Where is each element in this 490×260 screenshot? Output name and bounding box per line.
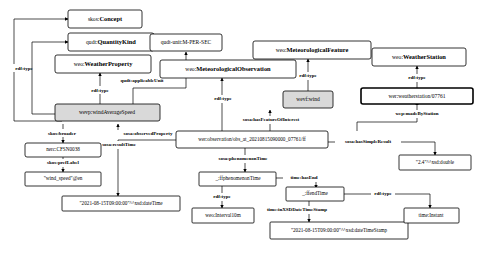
edge-made-by-station: wep:madeByStation — [357, 102, 445, 131]
edge-phenomenon-time: sosa:phenomenonTime — [208, 148, 274, 172]
node-label-nerc-cfsn0038: nerc:CFSN0038 — [46, 146, 80, 152]
edge-label-rdftype-metobservation: rdf:type — [214, 96, 232, 101]
rdf-graph-canvas: rdf:type rdf:type qudt:applicableUnit sk… — [0, 0, 490, 260]
node-label-literal-result-time: "2021-08-15T09:00:00"^^xsd:dateTime — [80, 200, 164, 206]
edge-label-observed-property: sosa:observedProperty — [124, 131, 173, 136]
edge-label-simple-result: sosa:hasSimpleResult — [345, 139, 391, 144]
node-wevf-wind: wevf:wind — [283, 91, 333, 108]
svg-text:weo:MeteorologicalObservation: weo:MeteorologicalObservation — [185, 65, 271, 72]
edge-label-in-xsd-datetimestamp: time:inXSDDateTimeStamp — [267, 207, 327, 212]
edge-feature-of-interest: sosa:hasFeatureOfInterest — [238, 110, 306, 131]
node-label-time-instant: time:Instant — [419, 212, 444, 218]
edge-rdftype-weatherstation: rdf:type — [406, 66, 428, 89]
node-label-literal-simple-result: "2.4"^^xsd:double — [416, 159, 455, 165]
edge-label-rdftype-metfeature: rdf:type — [299, 73, 317, 78]
node-bnode-phenomenon-time: _:ffphenomenonTime — [199, 172, 276, 186]
edge-label-rdftype-weatherstation: rdf:type — [408, 75, 426, 80]
node-weo-weatherproperty: weo:WeatherProperty weo:WeatherProperty — [55, 55, 151, 73]
edge-label-skos-preflabel: skos:prefLabel — [47, 160, 79, 165]
edge-label-rdftype-weatherproperty: rdf:type — [91, 88, 109, 93]
node-time-instant: time:Instant — [404, 208, 459, 223]
edge-label-result-time: sosa:resultTime — [102, 142, 136, 147]
node-weo-weatherstation: weo:WeatherStation weo:WeatherStation — [372, 48, 466, 66]
node-label-qudt-unit-m-per-sec: qudt-unit:M-PER-SEC — [161, 39, 212, 45]
node-literal-windspeed-label: "wind_speed"@en — [25, 172, 101, 186]
edge-label-phenomenon-time: sosa:phenomenonTime — [218, 156, 268, 161]
edge-has-end: time:hasEnd — [276, 174, 325, 188]
node-wevp-windaveragespeed: wevp:windAverageSpeed — [55, 104, 160, 121]
node-nerc-cfsn0038: nerc:CFSN0038 — [25, 143, 101, 157]
node-label-wevp-windaveragespeed: wevp:windAverageSpeed — [79, 109, 135, 115]
node-wer-observation: wer:observation/obs_at_20210815090000_07… — [176, 131, 328, 148]
node-label-wer-weatherstation-07761: wer:weatherstation/07761 — [388, 93, 445, 99]
svg-text:skos:Concept: skos:Concept — [88, 15, 123, 22]
node-weo-meteorologicalfeature: weo:MeteorologicalFeature weo:Meteorolog… — [253, 41, 371, 59]
node-label-wer-observation: wer:observation/obs_at_20210815090000_07… — [198, 136, 306, 142]
node-wer-weatherstation-07761: wer:weatherstation/07761 — [361, 88, 473, 104]
node-label-bnode-end-time: _:ffendTime — [301, 190, 328, 196]
edge-rdftype-metobservation: rdf:type — [212, 78, 234, 131]
node-skos-concept: skos:Concept skos:Concept — [68, 10, 142, 28]
edge-label-rdftype-concept: rdf:type — [15, 66, 33, 71]
svg-text:weo:WeatherStation: weo:WeatherStation — [392, 53, 446, 60]
node-qudt-unit-m-per-sec: qudt-unit:M-PER-SEC — [150, 34, 222, 51]
edge-label-skos-broader: skos:broader — [48, 131, 77, 136]
edge-skos-broader: skos:broader — [40, 124, 85, 143]
edge-rdftype-quantitykind — [32, 42, 68, 114]
node-weo-interval10m: weo:Interval10m — [192, 208, 254, 223]
node-label-wevf-wind: wevf:wind — [296, 96, 320, 102]
edge-label-rdftype-instant: rdf:type — [374, 191, 392, 196]
svg-text:weo:MeteorologicalFeature: weo:MeteorologicalFeature — [276, 46, 349, 53]
edge-label-rdftype-interval10m: rdf:type — [213, 194, 231, 199]
node-literal-end-time: "2021-08-15T09:00:00"^^xsd:dateTimeStamp — [270, 222, 408, 239]
edge-in-xsd-datetimestamp: time:inXSDDateTimeStamp — [252, 200, 342, 222]
edge-label-has-end: time:hasEnd — [290, 175, 317, 180]
edge-rdftype-instant: rdf:type — [344, 190, 430, 208]
edge-rdftype-interval10m: rdf:type — [211, 185, 233, 208]
edge-skos-preflabel: skos:prefLabel — [40, 156, 87, 172]
edge-result-time: sosa:resultTime — [95, 140, 191, 196]
node-bnode-end-time: _:ffendTime — [286, 187, 344, 201]
edge-label-applicable-unit: qudt:applicableUnit — [120, 78, 163, 83]
node-label-literal-windspeed-label: "wind_speed"@en — [44, 175, 83, 181]
edge-label-feature-of-interest: sosa:hasFeatureOfInterest — [243, 117, 300, 122]
node-qudt-quantitykind: qudt:QuantityKind qudt:QuantityKind — [68, 33, 154, 51]
svg-text:weo:WeatherProperty: weo:WeatherProperty — [74, 60, 133, 67]
svg-text:qudt:QuantityKind: qudt:QuantityKind — [86, 38, 136, 45]
node-label-literal-end-time: "2021-08-15T09:00:00"^^xsd:dateTimeStamp — [291, 227, 388, 233]
edge-label-made-by-station: wep:madeByStation — [395, 111, 438, 116]
node-literal-simple-result: "2.4"^^xsd:double — [399, 155, 471, 170]
node-label-weo-interval10m: weo:Interval10m — [205, 212, 240, 218]
edge-simple-result: sosa:hasSimpleResult — [328, 138, 435, 155]
node-label-bnode-phenomenon-time: _:ffphenomenonTime — [215, 175, 262, 181]
node-literal-result-time: "2021-08-15T09:00:00"^^xsd:dateTime — [62, 196, 180, 211]
node-weo-meteorologicalobservation: weo:MeteorologicalObservation weo:Meteor… — [160, 60, 296, 78]
